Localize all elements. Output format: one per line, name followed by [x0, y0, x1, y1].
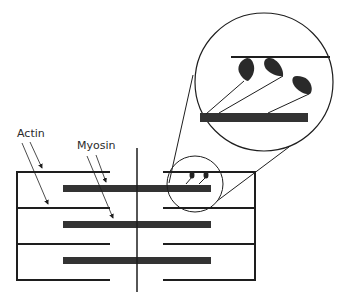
magnify-connector-line — [217, 147, 289, 201]
large-zoom-region — [195, 13, 333, 151]
small-zoom-circle — [167, 156, 223, 212]
small-zoom-region — [167, 156, 223, 212]
sarcomere-diagram: Actin Myosin — [0, 0, 345, 304]
myosin-pointer-arrow — [96, 155, 106, 182]
myosin-head-icon — [190, 172, 195, 179]
myosin-label: Myosin — [77, 139, 116, 152]
magnify-connector-line — [169, 75, 193, 183]
actin-label: Actin — [17, 127, 45, 140]
myosin-head-icon — [204, 172, 209, 179]
large-zoom-circle — [195, 13, 333, 151]
actin-pointer-arrow — [30, 142, 42, 168]
magnified-myosin-filament — [200, 113, 308, 122]
